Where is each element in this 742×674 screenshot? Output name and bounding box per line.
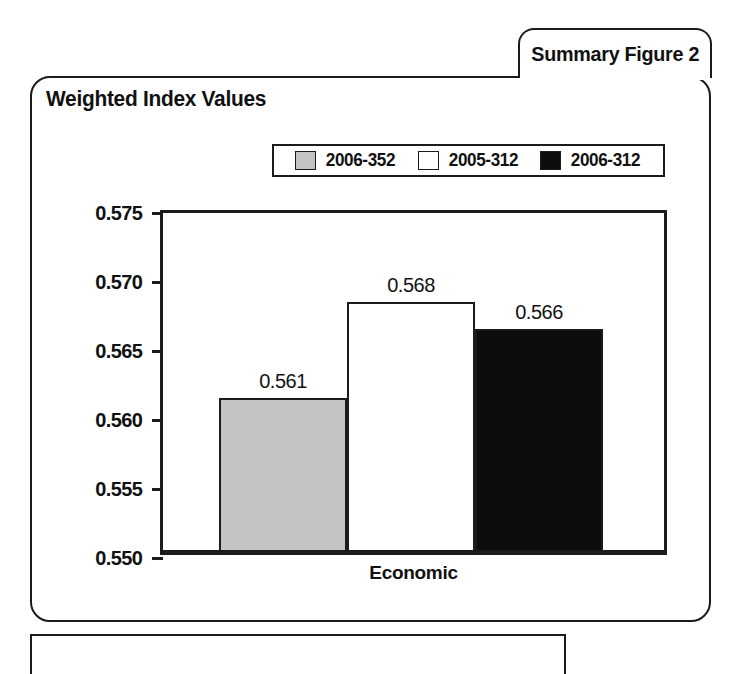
x-axis-category-label: Economic	[160, 562, 667, 584]
y-axis-tick-label: 0.550	[96, 546, 143, 570]
tab-panel-joiner	[521, 72, 709, 80]
legend-item-2006-352: 2006-352	[295, 150, 397, 171]
y-axis-tick-label: 0.575	[96, 201, 143, 225]
legend-label: 2005-312	[448, 150, 517, 171]
y-axis-tick: 0.570	[94, 270, 163, 294]
legend-item-2006-312: 2006-312	[540, 150, 642, 171]
bottom-panel	[30, 634, 566, 674]
chart-legend: 2006-352 2005-312 2006-312	[272, 144, 665, 177]
y-axis-tick-mark	[152, 281, 163, 284]
bar-2006-312: 0.566	[475, 329, 603, 550]
bar-value-label: 0.568	[387, 274, 435, 297]
chart-title: Weighted Index Values	[46, 86, 266, 112]
legend-swatch-gray-icon	[295, 151, 316, 170]
legend-label: 2006-312	[571, 150, 640, 171]
plot-area: 0.5750.5700.5650.5600.5550.5500.5610.568…	[160, 210, 667, 555]
y-axis-tick-label: 0.560	[96, 408, 143, 432]
y-axis-tick: 0.575	[94, 201, 163, 225]
y-axis-tick-mark	[152, 557, 163, 560]
bar-value-label: 0.561	[259, 370, 307, 393]
y-axis-tick-label: 0.555	[96, 477, 143, 501]
y-axis-tick-mark	[152, 350, 163, 353]
bar-value-label: 0.566	[515, 301, 563, 324]
figure-tab-label: Summary Figure 2	[531, 42, 699, 66]
legend-swatch-white-icon	[418, 151, 439, 170]
legend-label: 2006-352	[326, 150, 395, 171]
y-axis-tick: 0.565	[94, 339, 163, 363]
y-axis-tick-mark	[152, 488, 163, 491]
y-axis-tick: 0.550	[94, 546, 163, 570]
y-axis-tick-mark	[152, 212, 163, 215]
y-axis-tick: 0.555	[94, 477, 163, 501]
y-axis-tick: 0.560	[94, 408, 163, 432]
bar-2005-312: 0.568	[347, 302, 475, 550]
legend-item-2005-312: 2005-312	[418, 150, 520, 171]
legend-swatch-black-icon	[540, 151, 561, 170]
y-axis-tick-mark	[152, 419, 163, 422]
figure-tab: Summary Figure 2	[518, 28, 712, 78]
y-axis-tick-label: 0.570	[96, 270, 143, 294]
bar-2006-352: 0.561	[219, 398, 347, 550]
y-axis-tick-label: 0.565	[96, 339, 143, 363]
